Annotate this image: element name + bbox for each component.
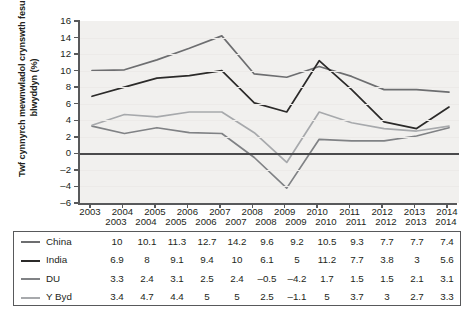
y-axis-tick bbox=[74, 169, 80, 170]
table-column-header: 2009 bbox=[285, 216, 306, 227]
table-column-header: 2003 bbox=[105, 216, 126, 227]
table-cell: 9.1 bbox=[170, 254, 184, 266]
table-column-headers: 2003200420052006200720082009201020112012… bbox=[0, 216, 475, 231]
legend-series-label: India bbox=[46, 254, 67, 266]
series-line-china bbox=[92, 36, 449, 92]
table-column-header: 2011 bbox=[346, 216, 367, 227]
y-axis-tick bbox=[74, 186, 80, 187]
table-cell: 3.1 bbox=[440, 273, 454, 285]
table-cell: 9.4 bbox=[200, 254, 214, 266]
table-cell: 3.8 bbox=[380, 254, 394, 266]
table-cell: 2.5 bbox=[260, 291, 274, 303]
table-cell: 7.4 bbox=[440, 236, 454, 248]
table-cell: 2.7 bbox=[410, 291, 424, 303]
table-cell: 11.3 bbox=[168, 236, 186, 248]
table-cell: 4.4 bbox=[170, 291, 184, 303]
plot-area: 1614121086420–2–4–6 bbox=[78, 21, 459, 203]
y-axis-tick-label: 14 bbox=[60, 33, 71, 43]
y-axis-tick bbox=[74, 53, 80, 54]
table-cell: –4.2 bbox=[287, 273, 306, 285]
table-cell: 7.7 bbox=[410, 236, 424, 248]
table-cell: 10.1 bbox=[137, 236, 156, 248]
table-cell: 3.7 bbox=[350, 291, 364, 303]
table-cell: 3.4 bbox=[110, 291, 124, 303]
table-column-header: 2007 bbox=[225, 216, 246, 227]
y-axis-tick bbox=[74, 70, 80, 71]
y-axis-tick-label: –4 bbox=[60, 182, 71, 192]
legend-swatch-y-byd bbox=[21, 297, 40, 299]
y-axis-tick-label: 6 bbox=[66, 99, 71, 109]
table-cell: 6.9 bbox=[110, 254, 124, 266]
table-cell: –1.1 bbox=[287, 291, 306, 303]
legend-series-label: Y Byd bbox=[46, 291, 72, 303]
table-cell: 14.2 bbox=[227, 236, 246, 248]
legend-swatch-china bbox=[21, 241, 40, 243]
table-cell: 2.1 bbox=[410, 273, 424, 285]
y-axis-tick-label: –2 bbox=[60, 165, 71, 175]
table-cell: 5 bbox=[234, 291, 239, 303]
table-cell: 9.3 bbox=[350, 236, 364, 248]
plot-band-line bbox=[80, 120, 459, 121]
table-row: India6.989.19.4106.1511.27.73.835.6 bbox=[14, 251, 460, 270]
y-axis-title: Twf cynnyrch mewnwladol crynswth fesul b… bbox=[17, 0, 40, 178]
table-column-header: 2010 bbox=[315, 216, 336, 227]
table-cell: 5 bbox=[294, 254, 299, 266]
series-lines bbox=[80, 21, 459, 203]
y-axis-tick bbox=[74, 136, 80, 137]
plot-band-line bbox=[80, 54, 459, 55]
table-row: China1010.111.312.714.29.69.210.59.37.77… bbox=[14, 233, 460, 252]
table-cell: 3.1 bbox=[170, 273, 184, 285]
table-cell: 4.7 bbox=[140, 291, 154, 303]
plot-band-line bbox=[80, 170, 459, 171]
table-row: Y Byd3.44.74.4552.5–1.153.732.73.3 bbox=[14, 288, 460, 307]
table-cell: 10 bbox=[112, 236, 123, 248]
table-cell: 7.7 bbox=[350, 254, 364, 266]
y-axis-tick bbox=[74, 20, 80, 21]
table-cell: 11.2 bbox=[318, 254, 336, 266]
zero-baseline bbox=[80, 153, 459, 155]
table-cell: 2.4 bbox=[140, 273, 154, 285]
table-column-header: 2008 bbox=[255, 216, 276, 227]
table-column-header: 2004 bbox=[135, 216, 156, 227]
y-axis-tick-label: 8 bbox=[66, 82, 71, 92]
y-axis-tick bbox=[74, 120, 80, 121]
table-column-header: 2012 bbox=[375, 216, 396, 227]
table-cell: 2.4 bbox=[230, 273, 244, 285]
table-cell: 1.5 bbox=[380, 273, 394, 285]
data-table-block: 2003200420052006200720082009201020112012… bbox=[0, 216, 475, 322]
table-column-header: 2013 bbox=[405, 216, 426, 227]
plot-band-line bbox=[80, 137, 459, 138]
table-cell: 5 bbox=[324, 291, 329, 303]
plot-band-line bbox=[80, 186, 459, 187]
table-column-header: 2005 bbox=[165, 216, 186, 227]
table-cell: 10.5 bbox=[317, 236, 336, 248]
table-cell: 7.7 bbox=[380, 236, 394, 248]
y-axis-tick-label: 2 bbox=[66, 132, 71, 142]
y-axis-tick-label: –6 bbox=[60, 198, 71, 208]
table-cell: 3.3 bbox=[110, 273, 124, 285]
y-axis-tick-label: 10 bbox=[60, 66, 71, 76]
legend-series-label: DU bbox=[46, 273, 60, 285]
y-axis-tick-label: 12 bbox=[60, 49, 71, 59]
series-line-du bbox=[92, 126, 449, 188]
table-cell: –0.5 bbox=[257, 273, 276, 285]
legend-swatch-india bbox=[21, 260, 40, 262]
y-axis-tick bbox=[74, 103, 80, 104]
table-cell: 10 bbox=[232, 254, 243, 266]
y-axis-tick bbox=[74, 37, 80, 38]
table-cell: 3.3 bbox=[440, 291, 454, 303]
table-column-header: 2014 bbox=[435, 216, 456, 227]
table-cell: 3 bbox=[384, 291, 389, 303]
table-row: DU3.32.43.12.52.4–0.5–4.21.71.51.52.13.1 bbox=[14, 270, 460, 289]
legend-swatch-du bbox=[21, 278, 40, 280]
legend-series-label: China bbox=[46, 236, 72, 248]
plot-band-line bbox=[80, 87, 459, 88]
x-axis-spine bbox=[78, 203, 457, 205]
table-cell: 12.7 bbox=[197, 236, 216, 248]
table-cell: 3 bbox=[414, 254, 419, 266]
table-cell: 9.2 bbox=[290, 236, 304, 248]
line-chart: Twf cynnyrch mewnwladol crynswth fesul b… bbox=[0, 0, 475, 216]
plot-band-line bbox=[80, 38, 459, 39]
data-table: China1010.111.312.714.29.69.210.59.37.77… bbox=[13, 231, 461, 306]
y-axis-tick-label: 0 bbox=[66, 149, 71, 159]
